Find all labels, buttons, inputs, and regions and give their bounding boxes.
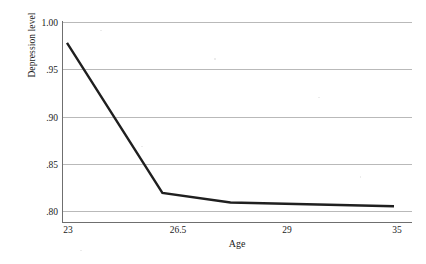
x-tick-label: 29 [257,225,317,235]
x-tick-label: 26.5 [148,225,208,235]
data-line [67,43,394,207]
line-chart: Depression level 1.00 .95 .90 .85 .80 23… [0,0,426,264]
x-axis-title: Age [62,238,412,249]
x-tick-label: 23 [38,225,98,235]
x-tick-label: 35 [367,225,426,235]
